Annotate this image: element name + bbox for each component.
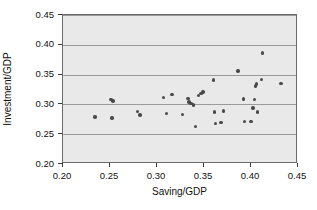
data-point xyxy=(242,97,245,100)
y-axis-label-container: Investment/GDP xyxy=(0,14,14,163)
x-axis-tick-label: 0.20 xyxy=(42,170,82,181)
gridline-y xyxy=(63,104,296,105)
data-point xyxy=(214,122,217,125)
gridlines xyxy=(63,15,296,162)
data-point xyxy=(199,92,202,95)
data-point xyxy=(197,94,200,97)
x-axis-tick-label: 0.30 xyxy=(136,170,176,181)
y-axis-tick-label: 0.45 xyxy=(16,9,54,20)
x-axis-tick-label: 0.35 xyxy=(183,170,223,181)
data-point xyxy=(253,98,256,101)
data-point xyxy=(201,90,204,93)
data-point xyxy=(110,116,113,119)
y-axis-tick xyxy=(58,44,62,45)
data-point xyxy=(194,125,197,128)
x-axis-tick xyxy=(62,163,63,167)
y-axis-label: Investment/GDP xyxy=(2,52,13,125)
data-point xyxy=(260,78,263,81)
data-point xyxy=(165,112,168,115)
data-point xyxy=(243,120,246,123)
data-point xyxy=(187,100,190,103)
x-axis-tick xyxy=(250,163,251,167)
y-axis-tick-label: 0.30 xyxy=(16,98,54,109)
x-axis-tick xyxy=(297,163,298,167)
y-axis-tick xyxy=(58,103,62,104)
x-axis-tick-label: 0.40 xyxy=(230,170,270,181)
data-points-layer xyxy=(63,15,296,162)
scatter-chart-figure: Investment/GDP 0.200.250.300.350.400.450… xyxy=(0,0,317,210)
x-axis-tick-label: 0.25 xyxy=(89,170,129,181)
gridline-y xyxy=(63,134,296,135)
y-axis-tick-label: 0.25 xyxy=(16,128,54,139)
data-point xyxy=(162,96,165,99)
gridline-y xyxy=(63,15,296,16)
data-point xyxy=(111,99,114,102)
data-point xyxy=(212,78,215,81)
data-point xyxy=(236,69,239,72)
data-point xyxy=(192,103,195,106)
y-axis-tick xyxy=(58,133,62,134)
y-axis-tick xyxy=(58,74,62,75)
data-point xyxy=(261,51,264,54)
data-point xyxy=(251,106,254,109)
data-point xyxy=(256,110,259,113)
data-point xyxy=(222,109,225,112)
x-axis-tick xyxy=(203,163,204,167)
data-point xyxy=(181,113,184,116)
data-point xyxy=(249,120,252,123)
x-axis-tick xyxy=(156,163,157,167)
data-point xyxy=(109,98,112,101)
x-axis-tick-label: 0.45 xyxy=(277,170,317,181)
data-point xyxy=(170,93,173,96)
x-axis-label: Saving/GDP xyxy=(62,186,297,197)
y-axis-tick xyxy=(58,163,62,164)
data-point xyxy=(219,121,222,124)
data-point xyxy=(279,82,282,85)
y-axis-tick-label: 0.40 xyxy=(16,38,54,49)
data-point xyxy=(255,82,258,85)
y-axis-tick xyxy=(58,14,62,15)
data-point xyxy=(254,84,257,87)
gridline-y xyxy=(63,45,296,46)
plot-area xyxy=(62,14,297,163)
data-point xyxy=(93,115,96,118)
gridline-y xyxy=(63,75,296,76)
x-axis-tick xyxy=(109,163,110,167)
y-axis-tick-label: 0.35 xyxy=(16,68,54,79)
data-point xyxy=(213,110,216,113)
y-axis-tick-label: 0.20 xyxy=(16,158,54,169)
data-point xyxy=(138,113,141,116)
data-point xyxy=(136,110,139,113)
data-point xyxy=(186,97,189,100)
data-point xyxy=(189,102,192,105)
